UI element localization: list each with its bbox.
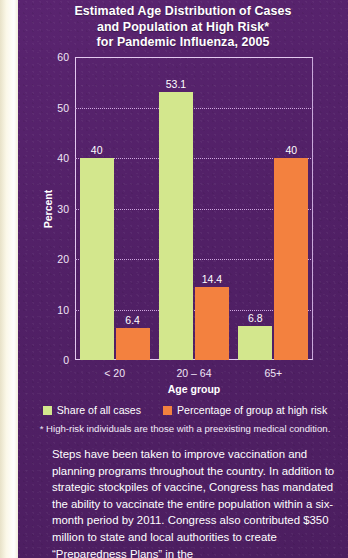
y-tick-label: 0 [63, 354, 69, 366]
y-tick-label: 20 [57, 253, 69, 265]
legend-swatch-icon [43, 406, 52, 415]
chart-legend: Share of all cases Percentage of group a… [32, 404, 338, 416]
chart-title-line-1: Estimated Age Distribution of Cases [28, 4, 338, 20]
bar-cases-65-plus[interactable]: 6.8 [238, 326, 272, 360]
chart-footnote: * High-risk individuals are those with a… [28, 423, 342, 434]
bar-groups: 40 6.4 < 20 53.1 14.4 20 – 64 [75, 57, 313, 360]
bar-value-label: 53.1 [166, 78, 186, 90]
bar-value-label: 14.4 [202, 273, 222, 285]
bar-cases-under-20[interactable]: 40 [80, 158, 114, 360]
bar-value-label: 40 [285, 144, 297, 156]
bar-cases-20-64[interactable]: 53.1 [159, 92, 193, 360]
legend-item-high-risk: Percentage of group at high risk [163, 404, 327, 416]
y-tick-label: 50 [57, 102, 69, 114]
y-axis-title: Percent [42, 189, 54, 228]
page-edge-strip [0, 0, 18, 558]
y-tick-label: 30 [57, 203, 69, 215]
bar-group-65-plus: 6.8 40 65+ [236, 57, 310, 360]
bar-high-risk-20-64[interactable]: 14.4 [195, 287, 229, 360]
x-tick-20-64: 20 – 64 [176, 367, 211, 379]
y-tick-label: 10 [57, 304, 69, 316]
legend-label-cases: Share of all cases [57, 404, 141, 416]
body-paragraph: Steps have been taken to improve vaccina… [52, 446, 342, 558]
bar-value-label: 6.8 [248, 312, 263, 324]
legend-label-high-risk: Percentage of group at high risk [177, 404, 327, 416]
legend-item-cases: Share of all cases [43, 404, 141, 416]
infographic-panel: Estimated Age Distribution of Cases and … [18, 0, 348, 558]
bar-value-label: 6.4 [125, 314, 140, 326]
x-tick-65-plus: 65+ [264, 367, 282, 379]
page: Estimated Age Distribution of Cases and … [0, 0, 348, 558]
x-axis-title: Age group [75, 383, 313, 395]
bar-chart: Percent 6050403020100 40 6.4 < 20 53.1 [75, 57, 313, 360]
body-copy: Steps have been taken to improve vaccina… [52, 446, 342, 558]
bar-high-risk-65-plus[interactable]: 40 [274, 158, 308, 360]
bar-high-risk-under-20[interactable]: 6.4 [116, 328, 150, 360]
bar-group-20-64: 53.1 14.4 20 – 64 [157, 57, 231, 360]
chart-title: Estimated Age Distribution of Cases and … [28, 4, 338, 51]
x-tick-under-20: < 20 [104, 367, 125, 379]
chart-title-line-3: for Pandemic Influenza, 2005 [28, 35, 338, 51]
legend-swatch-icon [163, 406, 172, 415]
y-tick-label: 40 [57, 152, 69, 164]
chart-title-line-2: and Population at High Risk* [28, 20, 338, 36]
bar-value-label: 40 [91, 144, 103, 156]
bar-group-under-20: 40 6.4 < 20 [78, 57, 152, 360]
y-tick-label: 60 [57, 51, 69, 63]
